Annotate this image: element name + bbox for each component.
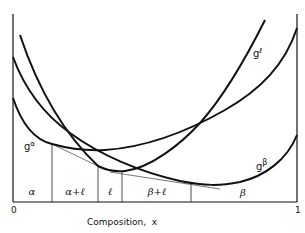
label-g-alpha: gα <box>24 140 35 152</box>
region-alpha-liquid: α+ℓ <box>65 186 84 197</box>
curve-g-beta <box>13 57 297 185</box>
region-liquid: ℓ <box>108 186 112 197</box>
region-beta: β <box>239 187 246 198</box>
common-tangents <box>52 144 220 189</box>
curve-g-liquid <box>20 20 265 171</box>
free-energy-composition-diagram: gα gℓ gβ α α+ℓ ℓ β+ℓ β 0 1 Composition, … <box>0 0 305 233</box>
region-beta-liquid: β+ℓ <box>147 186 166 197</box>
x-tick-0: 0 <box>11 205 17 215</box>
label-g-liquid: gℓ <box>253 47 262 59</box>
label-g-beta: gβ <box>256 158 267 172</box>
x-axis-label: Composition, x <box>87 217 158 227</box>
region-alpha: α <box>29 186 36 197</box>
curve-g-alpha <box>13 28 297 150</box>
x-tick-1: 1 <box>295 205 301 215</box>
